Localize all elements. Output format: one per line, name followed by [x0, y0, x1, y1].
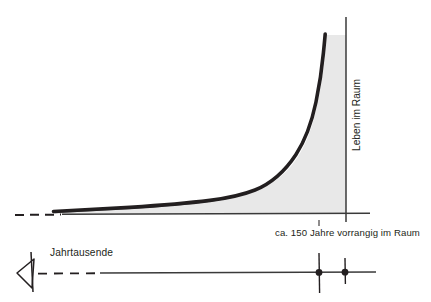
- timeline-dot-icon: [316, 269, 323, 276]
- arrow-left-icon: [17, 252, 34, 292]
- y-axis-label: Leben im Raum: [350, 60, 364, 170]
- timeline-dot-icon: [342, 269, 349, 276]
- diagram-canvas: ca. 150 Jahre vorrangig im Raum Jahrtaus…: [0, 0, 431, 302]
- y-axis-label-wrapper: Leben im Raum: [350, 60, 364, 170]
- epoch-scale-label: Jahrtausende: [50, 247, 113, 258]
- shaded-area-top-tail: [325, 35, 346, 60]
- timeline-marker-2: [342, 258, 349, 284]
- period-annotation-label: ca. 150 Jahre vorrangig im Raum: [275, 227, 420, 238]
- timeline-axis-line: [100, 272, 376, 273]
- timeline-marker-1: [316, 253, 323, 293]
- shaded-area: [55, 35, 346, 214]
